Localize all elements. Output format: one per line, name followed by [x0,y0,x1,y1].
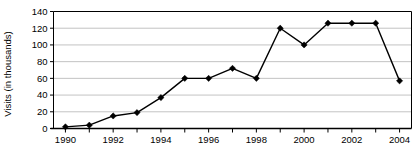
x-tick-label: 1998 [246,134,267,145]
x-tick-label: 1994 [150,134,171,145]
x-tick-label: 2000 [294,134,315,145]
y-tick-label: 40 [37,89,48,100]
y-tick-label: 120 [32,23,48,34]
y-tick-label: 20 [37,106,48,117]
x-tick-label: 2002 [341,134,362,145]
x-tick-label: 1996 [198,134,219,145]
x-tick-label: 1990 [55,134,76,145]
chart-canvas: 020406080100120140 199019921994199619982… [0,0,417,157]
line-chart: 020406080100120140 199019921994199619982… [0,0,417,157]
y-tick-label: 100 [32,39,48,50]
y-tick-label: 140 [32,6,48,17]
x-tick-label: 2004 [389,134,410,145]
y-tick-label: 60 [37,73,48,84]
y-axis-title: Visits (in thousands) [2,31,13,116]
y-tick-label: 0 [42,123,47,134]
x-tick-label: 1992 [103,134,124,145]
y-tick-label: 80 [37,56,48,67]
